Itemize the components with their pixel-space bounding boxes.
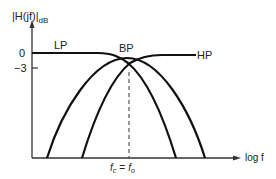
filter-response-diagram: |H(jf)|dB 0 −3 LP BP HP log f fc=fo (0, 0, 276, 179)
center-frequency-label: fc=fo (110, 162, 135, 174)
y-axis-label: |H(jf)|dB (12, 10, 48, 25)
x-axis-label: log f (245, 152, 264, 163)
tick-label-0: 0 (19, 47, 25, 59)
lp-label: LP (54, 39, 67, 51)
y-axis (30, 20, 35, 158)
bp-curve (47, 58, 205, 158)
tick-label-minus3: −3 (14, 62, 27, 74)
hp-label: HP (197, 49, 212, 61)
x-axis-arrow-icon (233, 156, 241, 161)
x-axis (32, 156, 241, 161)
bp-label: BP (119, 42, 134, 54)
